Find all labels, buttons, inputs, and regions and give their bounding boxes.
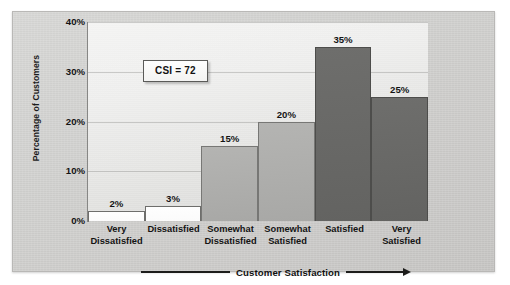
x-axis-caption: Customer Satisfaction: [141, 264, 411, 280]
gridline: [88, 22, 428, 23]
bar: 25%: [371, 97, 428, 221]
bar: 20%: [258, 122, 315, 222]
y-tick-label: 30%: [49, 67, 85, 77]
arrow-right-icon: [403, 268, 411, 276]
bar: 15%: [201, 146, 258, 221]
caption-rule-left: [141, 271, 230, 273]
y-tick-label: 10%: [49, 166, 85, 176]
x-category-label: Satisfied: [316, 224, 373, 254]
bar: 35%: [315, 47, 372, 221]
x-category-label: Somewhat Dissatisfied: [202, 224, 259, 254]
x-axis-caption-label: Customer Satisfaction: [236, 267, 340, 278]
x-axis-category-labels: Very DissatisfiedDissatisfiedSomewhat Di…: [88, 224, 430, 254]
bar-value-label: 3%: [146, 193, 201, 204]
bar-value-label: 25%: [372, 84, 427, 95]
chart-figure-panel: Percentage of Customers 0%10%20%30%40% 2…: [12, 11, 495, 272]
y-tick-label: 40%: [49, 17, 85, 27]
x-category-label: Somewhat Satisfied: [259, 224, 316, 254]
bar-value-label: 2%: [89, 198, 144, 209]
y-tick-label: 20%: [49, 117, 85, 127]
plot-area: 2%3%15%20%35%25%: [88, 22, 428, 221]
bar: 3%: [145, 206, 202, 221]
y-tick-label: 0%: [49, 216, 85, 226]
y-axis-tick-labels: 0%10%20%30%40%: [43, 12, 85, 271]
x-category-label: Very Dissatisfied: [88, 224, 145, 254]
bar: 2%: [88, 211, 145, 221]
x-category-label: Dissatisfied: [145, 224, 202, 254]
bar-value-label: 20%: [259, 109, 314, 120]
bar-value-label: 35%: [316, 34, 371, 45]
gridline: [88, 72, 428, 73]
x-category-label: Very Satisfied: [373, 224, 430, 254]
y-axis-title: Percentage of Customers: [29, 20, 43, 196]
caption-rule-right: [346, 271, 404, 273]
csi-annotation-box: CSI = 72: [143, 60, 208, 82]
bar-value-label: 15%: [202, 133, 257, 144]
